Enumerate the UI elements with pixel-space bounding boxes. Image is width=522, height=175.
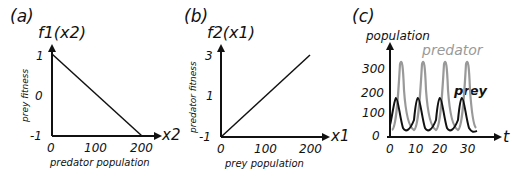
panel-c-ytick-200: 200 bbox=[361, 86, 384, 100]
panel-c-ytick-0: 0 bbox=[372, 129, 380, 143]
panel-a-label: (a) bbox=[10, 6, 34, 26]
panel-b-function-label: f2(x1) bbox=[207, 23, 255, 42]
panel-b-x-symbol: x1 bbox=[330, 127, 349, 145]
panel-c-ytick-100: 100 bbox=[362, 106, 385, 120]
panel-b-ylabel: predator fitness bbox=[188, 61, 198, 134]
panel-a-ytick-neg1: -1 bbox=[30, 129, 42, 143]
panel-a: (a) f1(x2) 1 0 -1 0 100 200 x2 predator … bbox=[10, 6, 180, 168]
panel-b-ytick-neg1: -1 bbox=[199, 130, 211, 144]
panel-a-xlabel: predator population bbox=[49, 157, 150, 168]
panel-c: (c) population predator prey 300 200 100… bbox=[352, 6, 510, 156]
panel-b-xtick-0: 0 bbox=[217, 142, 225, 156]
panel-c-xtick-0: 0 bbox=[386, 142, 394, 156]
panel-a-ytick-1: 1 bbox=[36, 49, 44, 63]
panel-a-x-symbol: x2 bbox=[161, 126, 180, 144]
panel-b-label: (b) bbox=[184, 6, 208, 26]
panel-c-label: (c) bbox=[352, 6, 375, 26]
figure: (a) f1(x2) 1 0 -1 0 100 200 x2 predator … bbox=[0, 0, 522, 175]
panel-a-ylabel: prey fitness bbox=[20, 69, 30, 123]
panel-b-xtick-100: 100 bbox=[254, 142, 277, 156]
panel-c-ytick-300: 300 bbox=[362, 62, 385, 76]
panel-c-ylabel: population bbox=[365, 29, 430, 43]
panel-c-xtick-30: 30 bbox=[460, 142, 476, 156]
panel-a-ytick-0: 0 bbox=[35, 89, 43, 103]
panel-a-xtick-100: 100 bbox=[84, 141, 107, 155]
panel-b: (b) f2(x1) 3 1 -1 0 100 200 x1 prey popu… bbox=[184, 6, 349, 169]
panel-a-fitness-line bbox=[52, 54, 142, 136]
panel-b-xlabel: prey population bbox=[224, 158, 304, 169]
predator-series bbox=[392, 62, 476, 130]
panel-b-ytick-1: 1 bbox=[206, 89, 214, 103]
panel-b-xtick-200: 200 bbox=[299, 142, 322, 156]
panel-c-x-symbol: t bbox=[503, 127, 510, 146]
panel-a-function-label: f1(x2) bbox=[38, 23, 86, 42]
panel-c-predator-label: predator bbox=[421, 42, 484, 58]
prey-series bbox=[390, 98, 477, 132]
panel-c-xtick-10: 10 bbox=[408, 142, 424, 156]
panel-a-xtick-200: 200 bbox=[130, 141, 153, 155]
panel-a-xtick-0: 0 bbox=[47, 141, 55, 155]
panel-b-fitness-line bbox=[221, 55, 310, 137]
panel-c-xtick-20: 20 bbox=[432, 142, 448, 156]
panel-b-ytick-3: 3 bbox=[205, 49, 213, 63]
